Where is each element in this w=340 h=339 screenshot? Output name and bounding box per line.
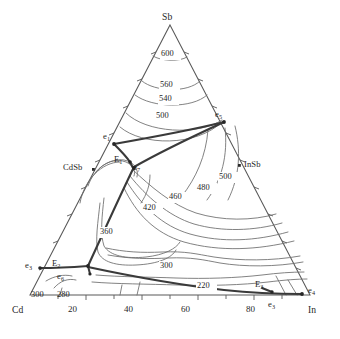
node-label-e3-left: e3 — [25, 261, 32, 270]
isotherm-curves — [46, 56, 307, 295]
ternary-phase-diagram: Sb Cd In 20 40 60 80 CdSb InSb 600 560 5… — [0, 0, 340, 339]
node-label-e3-left-sub: 3 — [29, 264, 32, 271]
node-label-e5-sub: 5 — [219, 113, 222, 120]
isotherm-label-560: 560 — [160, 81, 173, 89]
node-label-e6: e6 — [57, 272, 64, 281]
node-label-E3: E3 — [255, 280, 264, 289]
corner-label-sb: Sb — [162, 12, 172, 22]
isotherm-label-420: 420 — [143, 204, 156, 212]
node-label-e8-bottom: e3 — [268, 300, 275, 309]
axis-tick-40: 40 — [124, 305, 133, 314]
isotherm-label-540: 540 — [159, 95, 172, 103]
node-label-e6-sub: 6 — [61, 275, 64, 282]
node-label-E2-sub: 2 — [57, 262, 60, 269]
isotherm-label-500-right: 500 — [219, 173, 232, 181]
isotherm-label-300-cd: 300 — [31, 291, 44, 299]
isotherm-label-280-cd: 280 — [57, 291, 70, 299]
compound-label-insb: InSb — [244, 160, 261, 169]
node-label-E3-sub: 3 — [260, 283, 263, 290]
node-label-e7-sub: 7 — [137, 166, 140, 173]
compound-label-cdsb: CdSb — [63, 163, 83, 172]
triangle-outline — [30, 25, 310, 295]
axis-tick-80: 80 — [246, 305, 255, 314]
node-label-E1-sub: 1 — [119, 158, 122, 165]
isotherm-label-360: 360 — [100, 228, 113, 236]
node-label-e7: e7 — [133, 163, 140, 172]
node-label-e4-sub: 4 — [312, 289, 315, 296]
node-label-e1: e1 — [103, 132, 110, 141]
isotherm-label-460: 460 — [169, 193, 182, 201]
node-label-e4: e4 — [308, 286, 315, 295]
isotherm-label-300-main: 300 — [160, 262, 173, 270]
node-label-E1: E1 — [114, 155, 123, 164]
isotherm-label-220: 220 — [197, 282, 210, 290]
corner-label-cd: Cd — [12, 305, 23, 315]
node-label-E2: E2 — [52, 259, 61, 268]
isotherm-label-500-upper: 500 — [156, 112, 169, 120]
isotherm-label-600: 600 — [161, 50, 174, 58]
node-label-e1-sub: 1 — [107, 135, 110, 142]
axis-tick-60: 60 — [181, 305, 190, 314]
axis-tick-20: 20 — [68, 305, 77, 314]
node-label-e5: e5 — [215, 110, 222, 119]
isotherm-label-480: 480 — [197, 184, 210, 192]
node-label-e8-bottom-sub: 3 — [272, 303, 275, 310]
corner-label-in: In — [308, 305, 316, 315]
